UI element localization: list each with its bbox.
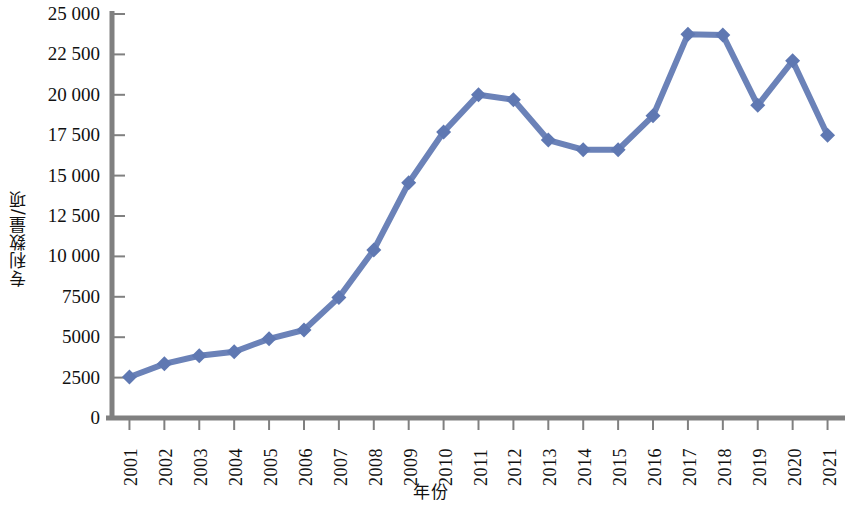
x-axis-tick-label: 2012 (505, 426, 525, 486)
x-axis-tick-label: 2016 (645, 426, 665, 486)
x-axis-tick-label: 2007 (331, 426, 351, 486)
x-axis-tick-label: 2015 (610, 426, 630, 486)
x-axis-tick-label: 2010 (436, 426, 456, 486)
x-axis-tick-label: 2006 (296, 426, 316, 486)
x-axis-tick-label: 2004 (226, 426, 246, 486)
x-axis-tick-label: 2005 (261, 426, 281, 486)
x-axis-tick-label: 2018 (715, 426, 735, 486)
x-axis-tick-label: 2017 (680, 426, 700, 486)
x-axis-tick-label: 2003 (191, 426, 211, 486)
axes (106, 11, 845, 418)
x-axis-title-text: 年份 (413, 482, 449, 502)
x-axis-tick-label: 2002 (156, 426, 176, 486)
x-axis-tick-label: 2020 (785, 426, 805, 486)
data-point-markers (122, 27, 835, 385)
x-axis-tick-label: 2013 (540, 426, 560, 486)
data-series-line (129, 34, 827, 377)
x-axis-tick-label: 2009 (401, 426, 421, 486)
x-axis-tick-label: 2001 (121, 426, 141, 486)
x-axis-title: 年份 (0, 478, 862, 503)
x-axis-tick-label: 2014 (575, 426, 595, 486)
axis-ticks (114, 14, 828, 430)
x-axis-tick-label: 2019 (750, 426, 770, 486)
chart-container: 专利数量/项 025005000750010 00012 50015 00017… (0, 0, 862, 514)
x-axis-tick-label: 2008 (366, 426, 386, 486)
x-axis-tick-label: 2011 (471, 426, 491, 486)
x-axis-tick-label: 2021 (820, 426, 840, 486)
